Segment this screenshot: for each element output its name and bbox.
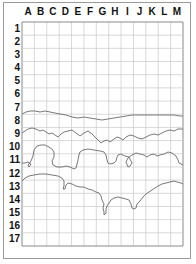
contour-line-1 — [22, 111, 183, 120]
gridlines — [22, 22, 183, 246]
grid-drawing — [0, 0, 196, 264]
contour-lines — [22, 111, 183, 215]
contour-line-3 — [22, 145, 183, 169]
